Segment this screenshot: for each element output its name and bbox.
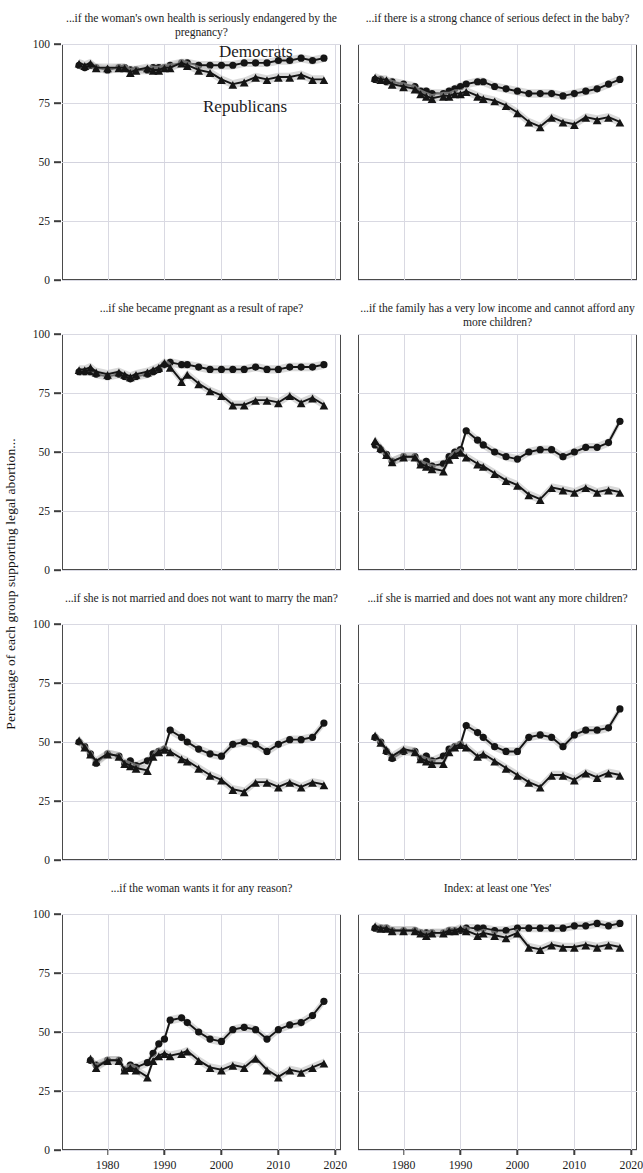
data-point-democrats (605, 922, 612, 929)
data-point-democrats (548, 925, 555, 932)
panel-6: ...if she is married and does not want a… (0, 592, 637, 886)
x-tick-label: 2020 (620, 1158, 643, 1173)
data-point-democrats (571, 90, 578, 97)
data-point-democrats (491, 743, 498, 750)
panel-8-plot-area (358, 914, 637, 1150)
data-point-democrats (525, 734, 532, 741)
data-point-democrats (582, 727, 589, 734)
gridline-horizontal (358, 280, 637, 281)
data-point-democrats (559, 453, 566, 460)
data-point-democrats (605, 81, 612, 88)
data-point-democrats (463, 722, 470, 729)
data-point-democrats (480, 441, 487, 448)
data-point-democrats (616, 418, 623, 425)
data-point-democrats (474, 437, 481, 444)
panel-8-title: Index: at least one 'Yes' (358, 882, 637, 896)
data-point-democrats (571, 731, 578, 738)
data-point-democrats (537, 90, 544, 97)
data-point-democrats (582, 444, 589, 451)
gridline-horizontal (358, 860, 637, 861)
panel-6-plot-area (358, 624, 637, 860)
data-point-democrats (559, 92, 566, 99)
data-point-democrats (605, 439, 612, 446)
data-point-democrats (594, 727, 601, 734)
data-point-democrats (559, 743, 566, 750)
panel-8: Index: at least one 'Yes'198019902000201… (0, 882, 637, 1173)
data-point-democrats (480, 734, 487, 741)
data-point-democrats (548, 734, 555, 741)
data-point-democrats (548, 446, 555, 453)
data-point-democrats (491, 83, 498, 90)
data-point-democrats (616, 705, 623, 712)
data-point-democrats (605, 724, 612, 731)
x-tick-label: 2010 (563, 1158, 587, 1173)
data-point-democrats (502, 85, 509, 92)
series-layer (358, 334, 637, 570)
x-tick-label: 2000 (506, 1158, 530, 1173)
gridline-horizontal (358, 1150, 637, 1151)
x-tick-mark (631, 1150, 632, 1155)
data-point-democrats (502, 453, 509, 460)
x-tick-label: 1990 (449, 1158, 473, 1173)
data-point-democrats (571, 448, 578, 455)
panel-2-plot-area (358, 44, 637, 280)
data-point-democrats (463, 427, 470, 434)
data-point-democrats (537, 731, 544, 738)
data-point-democrats (525, 448, 532, 455)
series-layer (358, 44, 637, 280)
panel-2: ...if there is a strong chance of seriou… (0, 12, 637, 306)
x-tick-mark (460, 1150, 461, 1155)
data-point-democrats (514, 455, 521, 462)
panel-4-plot-area (358, 334, 637, 570)
data-point-democrats (463, 81, 470, 88)
data-point-democrats (514, 88, 521, 95)
x-tick-label: 1980 (392, 1158, 416, 1173)
x-tick-mark (517, 1150, 518, 1155)
data-point-democrats (525, 90, 532, 97)
data-point-democrats (525, 925, 532, 932)
data-point-democrats (594, 920, 601, 927)
confidence-band-democrats (375, 417, 620, 470)
data-point-democrats (514, 748, 521, 755)
data-point-democrats (559, 925, 566, 932)
data-point-democrats (491, 448, 498, 455)
series-layer (358, 914, 637, 1150)
data-point-democrats (537, 925, 544, 932)
data-point-democrats (480, 78, 487, 85)
data-point-democrats (502, 748, 509, 755)
data-point-democrats (582, 88, 589, 95)
data-point-democrats (594, 444, 601, 451)
data-point-democrats (616, 76, 623, 83)
data-point-democrats (582, 922, 589, 929)
data-point-democrats (571, 922, 578, 929)
panel-4: ...if the family has a very low income a… (0, 302, 637, 596)
data-point-democrats (594, 85, 601, 92)
data-point-democrats (616, 920, 623, 927)
gridline-horizontal (358, 570, 637, 571)
series-layer (358, 624, 637, 860)
x-tick-mark (403, 1150, 404, 1155)
panel-2-title: ...if there is a strong chance of seriou… (358, 12, 637, 26)
x-tick-mark (574, 1150, 575, 1155)
panel-4-title: ...if the family has a very low income a… (358, 302, 637, 329)
confidence-band-republicans (375, 731, 620, 791)
data-point-democrats (537, 446, 544, 453)
data-point-democrats (548, 90, 555, 97)
panel-6-title: ...if she is married and does not want a… (358, 592, 637, 606)
data-point-democrats (474, 729, 481, 736)
